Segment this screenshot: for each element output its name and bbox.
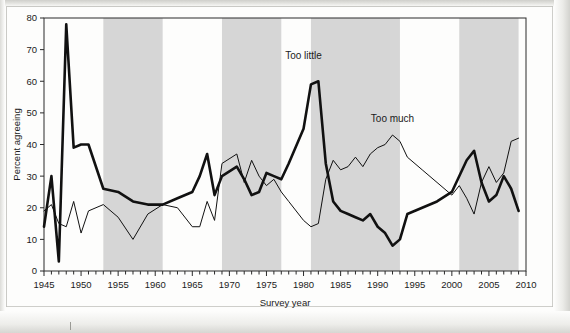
x-tick-label: 2005 — [478, 279, 499, 290]
y-tick-label: 10 — [26, 234, 37, 245]
y-axis-ticks: 01020304050607080 — [26, 12, 44, 276]
x-tick-label: 1960 — [145, 279, 166, 290]
x-tick-label: 1980 — [293, 279, 314, 290]
x-tick-label: 1965 — [182, 279, 203, 290]
x-tick-label: 1945 — [33, 279, 54, 290]
x-tick-label: 1970 — [219, 279, 240, 290]
x-axis-ticks: 1945195019551960196519701975198019851990… — [33, 279, 536, 290]
scanned-page: 01020304050607080 1945195019551960196519… — [0, 0, 570, 333]
y-tick-label: 70 — [26, 44, 37, 55]
shaded-band — [459, 18, 518, 271]
x-tick-label: 1990 — [367, 279, 388, 290]
series-label-too-much: Too much — [371, 113, 414, 124]
x-tick-label: 1985 — [330, 279, 351, 290]
y-tick-label: 40 — [26, 139, 37, 150]
chart-svg: 01020304050607080 1945195019551960196519… — [0, 0, 570, 333]
x-tick-label: 1955 — [108, 279, 129, 290]
x-tick-label: 1975 — [256, 279, 277, 290]
shaded-band — [103, 18, 162, 271]
x-tick-label: 2000 — [441, 279, 462, 290]
y-tick-label: 50 — [26, 107, 37, 118]
x-axis-minor-ticks — [44, 271, 526, 276]
y-tick-label: 30 — [26, 171, 37, 182]
y-axis-label: Percent agreeing — [11, 108, 22, 180]
y-tick-label: 0 — [32, 265, 37, 276]
x-axis-label: Survey year — [260, 297, 311, 308]
y-tick-label: 80 — [26, 12, 37, 23]
shaded-band — [222, 18, 281, 271]
series-label-too-little: Too little — [285, 50, 322, 61]
line-chart: 01020304050607080 1945195019551960196519… — [0, 0, 570, 333]
y-tick-label: 60 — [26, 76, 37, 87]
x-tick-label: 1950 — [71, 279, 92, 290]
x-tick-label: 2010 — [515, 279, 536, 290]
x-tick-label: 1995 — [404, 279, 425, 290]
y-tick-label: 20 — [26, 202, 37, 213]
